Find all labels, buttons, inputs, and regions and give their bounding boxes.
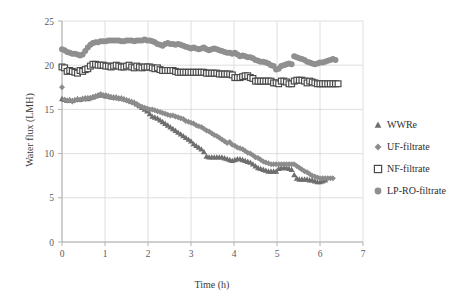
triangle-marker-icon — [375, 122, 382, 128]
x-tick-label: 2 — [146, 249, 151, 259]
data-point — [335, 81, 341, 87]
y-tick-label: 15 — [45, 105, 55, 115]
legend-item-uf-filtrate[interactable]: UF-filtrate — [375, 141, 431, 152]
data-point — [289, 61, 295, 67]
open-square-marker-icon — [374, 165, 381, 172]
y-tick-label: 0 — [49, 238, 54, 248]
data-series-layer — [59, 37, 341, 185]
data-point — [332, 57, 338, 63]
x-tick-label: 0 — [60, 249, 65, 259]
y-tick-label: 25 — [45, 17, 55, 27]
x-axis-tick-labels: 01234567 — [60, 249, 366, 259]
y-axis-tick-labels: 0510152025 — [45, 17, 55, 248]
x-tick-label: 6 — [318, 249, 323, 259]
x-tick-label: 7 — [361, 249, 366, 259]
y-tick-label: 5 — [49, 193, 54, 203]
series-wwre — [59, 91, 328, 184]
diamond-marker-icon — [375, 144, 382, 151]
legend-item-wwre[interactable]: WWRe — [375, 119, 418, 130]
y-axis-title: Water flux (LMH) — [24, 93, 36, 167]
chart-figure: 0510152025 01234567 WWReUF-filtrateNF-fi… — [0, 0, 474, 305]
x-tick-label: 1 — [103, 249, 108, 259]
x-tick-label: 4 — [232, 249, 237, 259]
x-tick-label: 5 — [275, 249, 280, 259]
data-point — [59, 84, 65, 90]
legend-label: LP-RO-filtrate — [387, 185, 446, 196]
chart-svg: 0510152025 01234567 WWReUF-filtrateNF-fi… — [0, 0, 474, 305]
y-tick-label: 10 — [45, 149, 55, 159]
legend-label: UF-filtrate — [387, 141, 430, 152]
series-uf-filtrate — [59, 84, 336, 181]
legend-item-nf-filtrate[interactable]: NF-filtrate — [374, 163, 430, 174]
chart-legend: WWReUF-filtrateNF-filtrateLP-RO-filtrate — [374, 119, 446, 196]
legend-label: WWRe — [387, 119, 418, 130]
legend-label: NF-filtrate — [387, 163, 430, 174]
x-tick-label: 3 — [189, 249, 194, 259]
y-tick-label: 20 — [45, 61, 55, 71]
x-axis-title: Time (h) — [195, 279, 230, 291]
legend-item-lp-ro-filtrate[interactable]: LP-RO-filtrate — [375, 185, 447, 196]
circle-marker-icon — [375, 188, 382, 195]
